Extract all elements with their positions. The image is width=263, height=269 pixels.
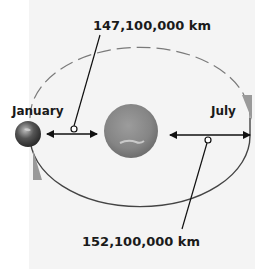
- aphelion-arrow: [170, 135, 250, 229]
- january-label: January: [11, 104, 64, 118]
- orbit-diagram: 147,100,000 km 152,100,000 km January Ju…: [0, 0, 263, 269]
- perihelion-distance-label: 147,100,000 km: [93, 18, 211, 33]
- perihelion-arrow: [47, 35, 100, 134]
- aphelion-distance-label: 152,100,000 km: [82, 234, 200, 249]
- july-label: July: [210, 104, 236, 118]
- sun-icon: [104, 104, 158, 158]
- earth-icon: [15, 121, 41, 147]
